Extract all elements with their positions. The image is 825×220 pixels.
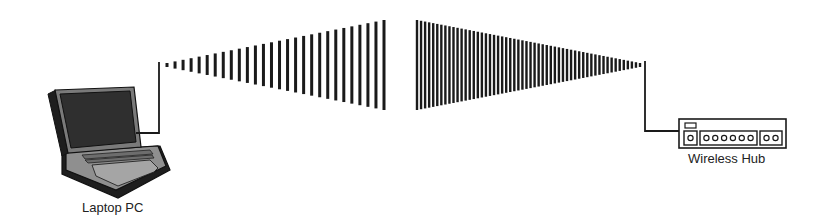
signal-bar [222,52,225,78]
signal-bar [562,48,564,82]
signal-bar [342,28,345,102]
signal-bar [631,61,633,68]
signal-bar [501,36,503,93]
signal-bar [481,33,483,98]
signal-bar [489,34,491,96]
signal-bar [428,22,430,107]
signal-bar [546,45,548,85]
signal-bar [318,33,321,98]
signal-bar [521,40,523,89]
diagram-canvas [0,0,825,220]
signal-bar [513,39,515,91]
signal-bar [635,62,637,68]
signal-bar [614,58,616,71]
signal-bar [198,57,201,74]
signal-bar [529,42,531,88]
signal-bars-right [416,20,641,110]
wireless-hub-icon [679,119,786,148]
signal-bar [278,41,281,90]
signal-bar [550,46,552,84]
signal-bar [623,60,625,70]
signal-bar [448,26,450,103]
signal-bar [639,63,641,67]
signal-bar [326,31,329,99]
signal-bar [190,58,193,72]
signal-bar [558,47,560,82]
wireless-hub-label: Wireless Hub [688,151,765,166]
signal-bar [246,47,249,83]
signal-bar [464,29,466,100]
signal-bar [166,63,169,67]
signal-bar [302,36,305,94]
signal-bar [485,33,487,96]
laptop-cable [136,62,159,133]
signal-bar [366,23,369,107]
signal-bar [586,53,588,77]
signal-bar [262,44,265,86]
network-diagram: Laptop PC Wireless Hub [0,0,825,220]
signal-bar [238,49,241,82]
signal-bar [541,44,543,86]
signal-bar [493,35,495,95]
signal-bar [582,52,584,78]
signal-bar [505,37,507,93]
signal-bar [358,25,361,105]
signal-bar [310,34,313,95]
signal-bar [206,55,209,75]
signal-bar [294,38,297,93]
signal-bar [214,53,217,76]
signal-bar [440,25,442,106]
signal-bar [473,31,475,99]
signal-bar [509,38,511,92]
laptop-label: Laptop PC [82,200,143,215]
hub-cable [645,61,680,131]
signal-bar [610,58,612,73]
signal-bar [537,43,539,86]
signal-bar [570,50,572,81]
signal-bar [533,43,535,88]
signal-bar [254,45,257,84]
signal-bar [460,29,462,102]
signal-bar [594,54,596,75]
laptop-icon [48,87,170,198]
signal-bar [456,28,458,102]
signal-bar [334,30,337,101]
signal-bar [444,25,446,104]
signal-bar [578,51,580,78]
signal-bar [619,59,621,71]
signal-bar [525,41,527,89]
signal-bar [270,42,273,87]
signal-bar [286,39,289,91]
signal-bar [182,60,185,70]
signal-bar [598,55,600,75]
signal-bar [497,36,499,95]
signal-bar [374,22,377,109]
signal-bar [554,47,556,84]
signal-bar [469,30,471,100]
signal-bar [350,26,353,103]
signal-bar [436,24,438,106]
signal-bar [432,23,434,107]
signal-bar [383,20,386,110]
signal-bar [230,50,233,79]
signal-bar [477,32,479,99]
signal-bar [574,50,576,79]
signal-bar [416,20,418,110]
signal-bar [590,54,592,77]
signal-bar [602,56,604,74]
signal-bar [517,40,519,91]
signal-bar [424,22,426,109]
signal-bar [606,57,608,74]
signal-bar [566,49,568,81]
signal-bar [420,21,422,109]
signal-bar [627,61,629,70]
signal-bar [452,27,454,103]
signal-bar [174,61,177,68]
signal-bars-left [166,20,386,110]
